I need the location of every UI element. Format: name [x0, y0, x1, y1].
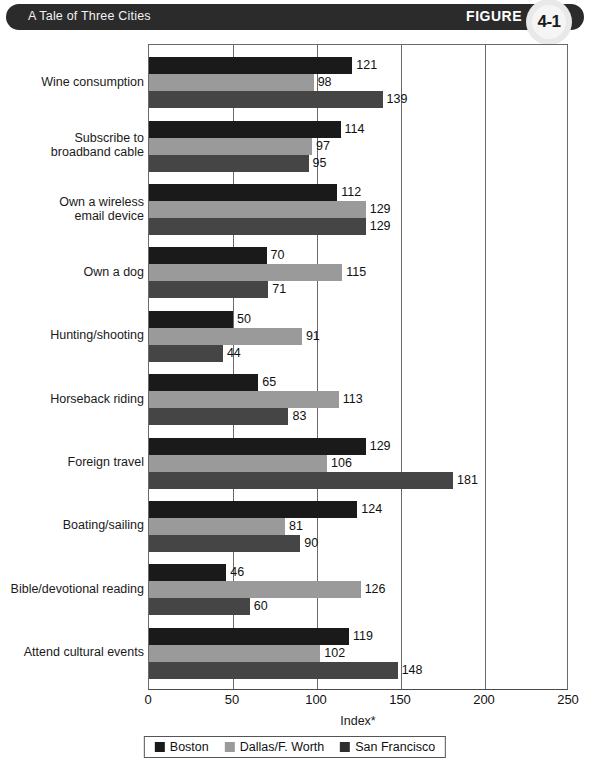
x-axis-title: Index* [148, 714, 568, 728]
bar [149, 581, 361, 598]
category-label-line: Boating/sailing [2, 518, 144, 532]
bar [149, 374, 258, 391]
page-title: A Tale of Three Cities [28, 9, 151, 23]
bar-group: 112129129 [149, 184, 567, 235]
category-label-line: broadband cable [2, 145, 144, 159]
chart-container: Wine consumptionSubscribe tobroadband ca… [0, 34, 590, 767]
category-label-line: Own a wireless [2, 195, 144, 209]
bar [149, 472, 453, 489]
category-label-line: Subscribe to [2, 131, 144, 145]
bar-value-label: 113 [343, 391, 363, 408]
figure-label: FIGURE [466, 8, 522, 24]
legend-item: Boston [155, 740, 209, 754]
category-label: Subscribe tobroadband cable [2, 131, 144, 159]
bar [149, 408, 288, 425]
bar [149, 121, 341, 138]
category-label-line: Attend cultural events [2, 645, 144, 659]
bar-value-label: 90 [304, 535, 318, 552]
x-tick-label: 200 [473, 692, 495, 707]
bar-value-label: 139 [387, 91, 408, 108]
bar-value-label: 81 [289, 518, 303, 535]
category-label-line: Own a dog [2, 265, 144, 279]
bar-value-label: 50 [237, 311, 251, 328]
legend-label: San Francisco [355, 740, 435, 754]
bar [149, 138, 312, 155]
chart-plot-area: 1219813911497951121291297011571509144651… [148, 44, 568, 690]
bar [149, 598, 250, 615]
bar [149, 564, 226, 581]
bar-group: 6511383 [149, 374, 567, 425]
category-label: Hunting/shooting [2, 328, 144, 342]
category-label-line: Bible/devotional reading [2, 582, 144, 596]
bar-group: 129106181 [149, 438, 567, 489]
bar [149, 455, 327, 472]
category-label: Foreign travel [2, 455, 144, 469]
bar [149, 281, 268, 298]
category-label-line: Foreign travel [2, 455, 144, 469]
bar-group: 4612660 [149, 564, 567, 615]
bar [149, 57, 352, 74]
x-tick-label: 0 [144, 692, 151, 707]
chart-legend: BostonDallas/F. WorthSan Francisco [144, 736, 446, 758]
bar-value-label: 119 [353, 628, 373, 645]
bar-value-label: 71 [272, 281, 286, 298]
category-label: Boating/sailing [2, 518, 144, 532]
legend-swatch-icon [225, 742, 235, 752]
bar-value-label: 181 [457, 472, 478, 489]
bar [149, 518, 285, 535]
bar-value-label: 98 [318, 74, 332, 91]
bar-value-label: 129 [370, 438, 391, 455]
bar [149, 438, 366, 455]
bar [149, 218, 366, 235]
bar-group: 119102148 [149, 628, 567, 679]
x-tick-label: 150 [389, 692, 411, 707]
bar-value-label: 126 [365, 581, 386, 598]
bar [149, 74, 314, 91]
bar-value-label: 115 [346, 264, 366, 281]
category-label-line: Wine consumption [2, 75, 144, 89]
bar [149, 91, 383, 108]
bar-value-label: 70 [271, 247, 285, 264]
bar [149, 311, 233, 328]
bar-group: 7011571 [149, 247, 567, 298]
bar [149, 501, 357, 518]
bar [149, 535, 300, 552]
bar [149, 184, 337, 201]
bar-value-label: 129 [370, 201, 391, 218]
bar-value-label: 46 [230, 564, 244, 581]
bar-value-label: 60 [254, 598, 268, 615]
x-axis-ticks: 050100150200250 [148, 692, 568, 712]
bar-value-label: 106 [331, 455, 352, 472]
bar-value-label: 124 [361, 501, 382, 518]
bar-value-label: 112 [341, 184, 361, 201]
category-axis-labels: Wine consumptionSubscribe tobroadband ca… [0, 44, 144, 690]
bar-group: 1149795 [149, 121, 567, 172]
legend-label: Boston [170, 740, 209, 754]
legend-swatch-icon [340, 742, 350, 752]
bar [149, 662, 398, 679]
x-tick-label: 250 [557, 692, 579, 707]
bar-value-label: 97 [316, 138, 330, 155]
category-label: Bible/devotional reading [2, 582, 144, 596]
bar [149, 155, 309, 172]
figure-header-banner: A Tale of Three Cities FIGURE 4-1 [6, 4, 584, 30]
bar-value-label: 114 [345, 121, 365, 138]
bar-value-label: 148 [402, 662, 423, 679]
bar-group: 1248190 [149, 501, 567, 552]
bar [149, 645, 320, 662]
category-label-line: email device [2, 209, 144, 223]
bar [149, 201, 366, 218]
bar-value-label: 44 [227, 345, 241, 362]
bar [149, 328, 302, 345]
category-label: Own a wirelessemail device [2, 195, 144, 223]
category-label: Own a dog [2, 265, 144, 279]
bar-value-label: 91 [306, 328, 320, 345]
bar-value-label: 65 [262, 374, 276, 391]
bar-value-label: 129 [370, 218, 391, 235]
bar [149, 247, 267, 264]
x-tick-label: 100 [305, 692, 327, 707]
legend-label: Dallas/F. Worth [240, 740, 325, 754]
bar [149, 628, 349, 645]
x-tick-label: 50 [225, 692, 239, 707]
bar-value-label: 95 [313, 155, 327, 172]
